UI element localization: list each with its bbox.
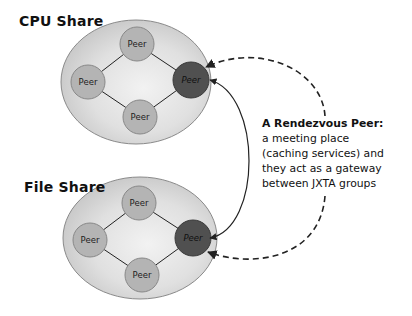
rendezvous-link-arrow: [210, 80, 249, 238]
svg-text:Peer: Peer: [181, 75, 201, 85]
svg-text:Peer: Peer: [79, 77, 98, 87]
svg-text:Peer: Peer: [183, 233, 203, 243]
file-share-group: Peer Peer Peer Peer: [63, 177, 217, 299]
svg-text:Peer: Peer: [128, 39, 147, 49]
callout-dashed-arrow-bottom: [208, 196, 325, 259]
note-line: they act as a gateway: [262, 161, 412, 176]
rendezvous-peer-node: Peer: [175, 220, 211, 256]
rendezvous-note: A Rendezvous Peer: a meeting place (cach…: [262, 116, 412, 191]
note-line: between JXTA groups: [262, 176, 412, 191]
note-line: a meeting place: [262, 131, 412, 146]
file-share-label: File Share: [24, 179, 105, 195]
peer-node: Peer: [71, 65, 105, 99]
peer-node: Peer: [125, 258, 159, 292]
peer-node: Peer: [122, 186, 156, 220]
note-line: (caching services) and: [262, 146, 412, 161]
peer-node: Peer: [73, 223, 107, 257]
svg-text:Peer: Peer: [133, 270, 152, 280]
peer-node: Peer: [123, 100, 157, 134]
note-title: A Rendezvous Peer:: [262, 116, 412, 131]
svg-text:Peer: Peer: [81, 235, 100, 245]
cpu-share-label: CPU Share: [19, 13, 103, 29]
svg-text:Peer: Peer: [130, 198, 149, 208]
peer-node: Peer: [120, 27, 154, 61]
svg-text:Peer: Peer: [131, 112, 150, 122]
rendezvous-peer-node: Peer: [173, 62, 209, 98]
cpu-share-group: Peer Peer Peer Peer: [61, 20, 211, 144]
